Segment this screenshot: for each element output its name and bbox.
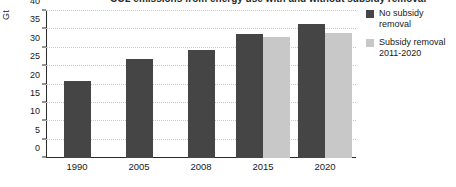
bar-group xyxy=(232,11,294,158)
x-tick-label: 2005 xyxy=(108,161,170,172)
bar-group xyxy=(170,11,232,158)
bar[interactable] xyxy=(298,24,325,158)
y-tick-label: 25 xyxy=(30,51,46,61)
legend-item[interactable]: No subsidy removal xyxy=(366,8,456,30)
y-tick-label: 20 xyxy=(30,70,46,80)
x-tick-label: 2020 xyxy=(294,161,356,172)
legend-swatch-icon xyxy=(366,10,374,18)
bar[interactable] xyxy=(263,37,290,158)
y-tick-label: 15 xyxy=(30,88,46,98)
bar[interactable] xyxy=(188,50,215,158)
y-axis-title: Gt xyxy=(1,10,11,20)
plot-area: 0510152025303540 xyxy=(46,11,356,158)
legend-swatch-icon xyxy=(366,39,374,47)
x-tick-label: 2008 xyxy=(170,161,232,172)
y-tick-label: 35 xyxy=(30,14,46,24)
bar[interactable] xyxy=(325,33,352,158)
legend-label: Subsidy removal 2011-2020 xyxy=(379,37,456,59)
bar[interactable] xyxy=(126,59,153,158)
legend-label: No subsidy removal xyxy=(379,8,456,30)
y-tick-label: 40 xyxy=(30,0,46,6)
legend-item[interactable]: Subsidy removal 2011-2020 xyxy=(366,37,456,59)
x-tick-label: 2015 xyxy=(232,161,294,172)
chart-legend: No subsidy removalSubsidy removal 2011-2… xyxy=(366,8,456,66)
cropped-chart-title: CO2 emissions from energy use with and w… xyxy=(0,0,456,5)
bar-groups xyxy=(46,11,356,158)
x-axis-labels: 19902005200820152020 xyxy=(46,161,356,172)
bar-group xyxy=(294,11,356,158)
y-tick-label: 5 xyxy=(35,125,46,135)
x-tick-label: 1990 xyxy=(46,161,108,172)
chart-container: CO2 emissions from energy use with and w… xyxy=(0,0,456,187)
chart-title-text: CO2 emissions from energy use with and w… xyxy=(110,0,426,4)
bar[interactable] xyxy=(236,34,263,158)
y-tick-label: 0 xyxy=(35,143,46,153)
bar[interactable] xyxy=(64,81,91,158)
bar-group xyxy=(108,11,170,158)
y-tick-label: 10 xyxy=(30,106,46,116)
bar-group xyxy=(46,11,108,158)
y-tick-label: 30 xyxy=(30,33,46,43)
